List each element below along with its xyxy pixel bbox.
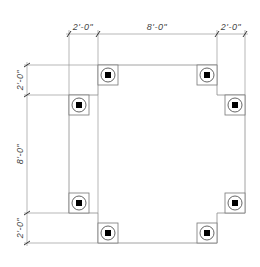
plan-drawing: 2'-0" 8'-0" 2'-0" 2'-0" 8'-0" 2'-0"	[0, 0, 260, 267]
column-3	[197, 65, 217, 85]
top-dimension: 2'-0" 8'-0" 2'-0"	[66, 22, 248, 37]
column-8	[197, 223, 217, 243]
left-dimension: 2'-0" 8'-0" 2'-0"	[15, 62, 30, 246]
column-6	[98, 223, 118, 243]
dim-left-center: 8'-0"	[15, 143, 25, 164]
column-7	[225, 193, 245, 213]
dim-left-top: 2'-0"	[15, 69, 25, 91]
column-1	[98, 65, 118, 85]
dim-top-right: 2'-0"	[220, 22, 242, 32]
dim-top-left: 2'-0"	[72, 22, 94, 32]
column-5	[69, 193, 89, 213]
column-4	[225, 95, 245, 115]
dim-top-center: 8'-0"	[147, 22, 168, 32]
plan-outline	[69, 65, 245, 243]
column-2	[69, 95, 89, 115]
dim-left-bottom: 2'-0"	[15, 217, 25, 239]
extension-lines	[24, 30, 245, 243]
